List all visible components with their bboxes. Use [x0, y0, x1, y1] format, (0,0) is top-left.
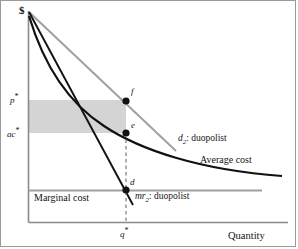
point-e-marker	[122, 129, 129, 136]
x-axis-label: Quantity	[228, 231, 265, 242]
marginal-revenue-curve-label: mr2: duopolist	[135, 192, 189, 204]
mr-label-prefix: mr	[135, 191, 146, 201]
y-tick-price-star: *	[15, 92, 19, 101]
point-d-label: d	[130, 178, 135, 187]
y-tick-avg-cost-star: *	[16, 126, 20, 135]
point-d-marker	[122, 186, 129, 193]
x-tick-quantity: q*	[120, 227, 129, 239]
point-e-label: e	[131, 121, 135, 130]
y-tick-avg-cost-text: ac	[7, 129, 16, 139]
economics-diagram-figure: $ Quantity p* ac* q* f e d d2: duopolist…	[0, 0, 298, 249]
average-cost-label: Average cost	[200, 155, 252, 165]
demand-curve-label-suffix: : duopolist	[186, 133, 226, 143]
y-tick-price: p*	[10, 93, 19, 105]
point-f-marker	[122, 97, 129, 104]
y-axis-label: $	[19, 5, 25, 16]
demand-curve-label: d2: duopolist	[178, 134, 227, 146]
x-tick-quantity-star: *	[125, 226, 129, 235]
marginal-cost-label: Marginal cost	[34, 193, 89, 203]
mr-label-suffix: : duopolist	[149, 191, 189, 201]
average-cost-curve	[29, 16, 282, 176]
point-f-label: f	[131, 87, 134, 96]
plot-canvas	[0, 0, 298, 249]
y-tick-avg-cost: ac*	[7, 127, 20, 139]
